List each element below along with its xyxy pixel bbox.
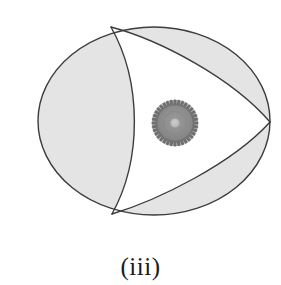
geometric-figure-svg: [0, 0, 281, 285]
gear-hub: [170, 118, 179, 127]
figure-container: (iii): [0, 0, 281, 285]
figure-caption-label: (iii): [0, 252, 281, 282]
